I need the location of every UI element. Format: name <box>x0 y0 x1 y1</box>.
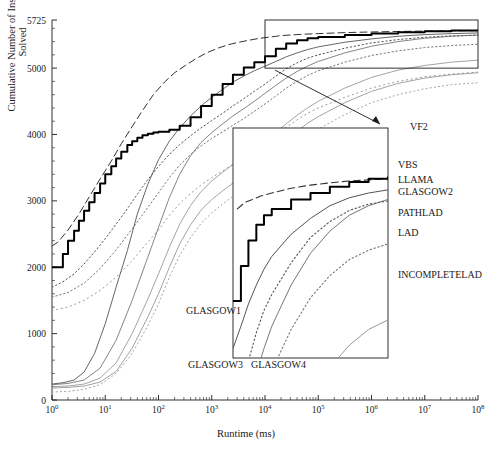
svg-text:100: 100 <box>46 403 60 415</box>
svg-text:5000: 5000 <box>27 64 46 74</box>
svg-text:101: 101 <box>99 403 112 415</box>
svg-text:106: 106 <box>365 403 379 415</box>
annotation-pathlad: PATHLAD <box>398 207 443 218</box>
svg-text:105: 105 <box>312 403 326 415</box>
svg-text:0: 0 <box>41 396 46 406</box>
svg-text:108: 108 <box>472 403 486 415</box>
svg-text:102: 102 <box>152 403 166 415</box>
svg-text:3000: 3000 <box>27 196 46 206</box>
annotation-vf2: VF2 <box>410 121 428 132</box>
svg-text:1000: 1000 <box>27 329 46 339</box>
annotation-glasgow2: GLASGOW2 <box>398 186 453 197</box>
annotation-lad: LAD <box>398 227 419 238</box>
svg-text:103: 103 <box>205 403 219 415</box>
svg-text:2000: 2000 <box>27 263 46 273</box>
svg-text:5725: 5725 <box>27 16 46 26</box>
annotation-glasgow1: GLASGOW1 <box>186 305 241 316</box>
annotation-glasgow3: GLASGOW3 <box>188 359 243 370</box>
chart-figure: 0100020003000400050005725100101102103104… <box>0 0 492 453</box>
svg-text:104: 104 <box>259 403 273 415</box>
annotation-llama: LLAMA <box>398 174 434 185</box>
annotation-incompletelad: INCOMPLETELAD <box>398 269 482 280</box>
annotation-glasgow4: GLASGOW4 <box>251 359 306 370</box>
y-axis-title: Cumulative Number of Instances Solved <box>6 0 28 122</box>
annotation-vbs: VBS <box>398 159 417 170</box>
svg-text:4000: 4000 <box>27 130 46 140</box>
svg-text:107: 107 <box>418 403 432 415</box>
x-axis-title: Runtime (ms) <box>0 428 492 439</box>
